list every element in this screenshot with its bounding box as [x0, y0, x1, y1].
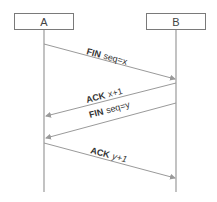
message-label-4: ACKy+1 [89, 145, 128, 164]
sequence-diagram: FINseq=x ACKx+1 FINseq=y ACKy+1 [0, 0, 217, 202]
message-arrow-4 [44, 143, 175, 178]
message-label-1: FINseq=x [85, 46, 128, 67]
